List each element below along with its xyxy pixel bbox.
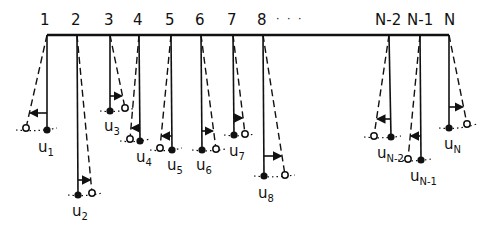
mass-displaced-N-1 — [405, 156, 411, 162]
u-subscript: 4 — [146, 157, 152, 168]
pendulum-index-N-2: N-2 — [375, 13, 401, 28]
mass-filled-1 — [43, 126, 50, 133]
pendulum-index-8: 8 — [257, 13, 267, 28]
u-symbol: u — [410, 167, 420, 185]
displacement-label-u3: u3 — [104, 119, 120, 137]
displaced-string-2 — [77, 35, 92, 193]
mass-displaced-1 — [23, 125, 29, 131]
displacement-label-uN-1: uN-1 — [410, 169, 437, 187]
pendulum-index-5: 5 — [165, 13, 175, 28]
mass-filled-5 — [168, 146, 175, 153]
swing-arc-5 — [150, 148, 182, 151]
mass-filled-N-2 — [387, 133, 394, 140]
mass-displaced-N — [464, 121, 470, 127]
displaced-string-8 — [263, 35, 285, 175]
pendulum-string-N-1 — [420, 35, 421, 160]
u-subscript: 3 — [114, 126, 120, 137]
u-subscript: 8 — [268, 193, 274, 204]
pendulum-string-N-2 — [389, 35, 391, 137]
pendulum-string-6 — [201, 35, 202, 150]
pendulum-index-6: 6 — [195, 13, 205, 28]
u-symbol: u — [229, 142, 239, 160]
pendulum-chain-diagram: 1u12u23u34u45u56u67u78u8N-2uN-2N-1uN-1Nu… — [0, 0, 494, 228]
u-subscript: 6 — [206, 165, 212, 176]
mass-displaced-3 — [122, 105, 128, 111]
mass-displaced-6 — [213, 146, 219, 152]
displaced-string-N-1 — [408, 35, 420, 159]
u-symbol: u — [38, 138, 48, 156]
pendulum-chain-figure — [0, 0, 494, 228]
pendulum-string-5 — [171, 35, 172, 150]
u-symbol: u — [196, 156, 206, 174]
mass-filled-8 — [260, 172, 267, 179]
u-symbol: u — [258, 184, 268, 202]
mass-filled-2 — [74, 191, 81, 198]
displacement-label-u8: u8 — [258, 186, 274, 204]
pendulum-index-2: 2 — [71, 13, 81, 28]
swing-arc-N — [439, 124, 477, 129]
u-subscript: N-1 — [420, 176, 437, 187]
mass-filled-6 — [198, 146, 205, 153]
u-symbol: u — [136, 148, 146, 166]
mass-filled-N-1 — [417, 156, 424, 163]
pendulum-index-N-1: N-1 — [407, 13, 433, 28]
mass-filled-N — [445, 124, 452, 131]
pendulum-index-7: 7 — [227, 13, 237, 28]
displacement-label-uN: uN — [444, 137, 461, 155]
mass-filled-4 — [136, 137, 143, 144]
u-subscript: 1 — [48, 147, 54, 158]
pendulum-index-3: 3 — [104, 13, 114, 28]
pendulum-string-2 — [77, 35, 78, 195]
displacement-label-u2: u2 — [72, 204, 88, 222]
pendulum-index-1: 1 — [40, 13, 50, 28]
mass-displaced-4 — [127, 136, 133, 142]
displaced-string-N — [449, 35, 467, 124]
displaced-string-4 — [130, 35, 139, 139]
u-symbol: u — [104, 117, 114, 135]
pendulum-index-N: N — [444, 13, 455, 28]
displacement-label-uN-2: uN-2 — [377, 146, 404, 164]
swing-arc-3 — [100, 108, 135, 112]
u-symbol: u — [377, 144, 387, 162]
u-subscript: 2 — [82, 211, 88, 222]
displacement-label-u5: u5 — [167, 158, 183, 176]
mass-displaced-5 — [157, 145, 163, 151]
mass-filled-3 — [106, 107, 113, 114]
mass-displaced-2 — [89, 190, 95, 196]
displacement-label-u1: u1 — [38, 140, 54, 158]
u-subscript: N — [454, 144, 461, 155]
pendulum-string-8 — [263, 35, 264, 176]
pendulum-string-4 — [139, 35, 140, 141]
displaced-string-1 — [26, 35, 47, 128]
displaced-string-7 — [233, 35, 245, 134]
swing-arc-N-2 — [364, 136, 401, 138]
displaced-string-5 — [160, 35, 171, 148]
u-symbol: u — [444, 135, 454, 153]
pendulum-string-7 — [233, 35, 234, 135]
u-subscript: 5 — [177, 165, 183, 176]
displacement-label-u4: u4 — [136, 150, 152, 168]
mass-displaced-N-2 — [371, 133, 377, 139]
mass-filled-7 — [230, 131, 237, 138]
displaced-string-6 — [201, 35, 216, 149]
mass-displaced-7 — [242, 131, 248, 137]
swing-arc-2 — [68, 193, 102, 196]
u-symbol: u — [167, 156, 177, 174]
swing-arc-4 — [120, 139, 150, 142]
swing-arc-7 — [224, 134, 255, 136]
u-subscript: 7 — [239, 151, 245, 162]
pendulum-index-4: 4 — [133, 13, 143, 28]
continuation-dots: · · · — [276, 13, 303, 24]
swing-arc-6 — [192, 149, 226, 151]
displaced-string-N-2 — [374, 35, 389, 136]
u-symbol: u — [72, 202, 82, 220]
displaced-string-3 — [110, 35, 125, 108]
displacement-label-u7: u7 — [229, 144, 245, 162]
mass-displaced-8 — [282, 172, 288, 178]
displacement-label-u6: u6 — [196, 158, 212, 176]
u-subscript: N-2 — [387, 153, 404, 164]
